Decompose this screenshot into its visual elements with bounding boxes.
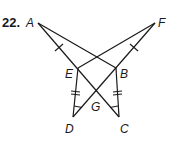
segment-ED: [73, 68, 78, 117]
segment-FE: [78, 23, 155, 68]
label-G: G: [91, 100, 100, 114]
geometry-figure: 22. A F E B G D C: [0, 0, 171, 151]
segment-FD: [73, 23, 155, 117]
segment-AC: [38, 23, 119, 117]
label-B: B: [120, 67, 128, 81]
problem-number: 22.: [2, 15, 20, 30]
tick-ED-2: [71, 94, 80, 95]
label-E: E: [65, 67, 74, 81]
label-D: D: [65, 122, 74, 136]
label-F: F: [158, 16, 166, 30]
segment-BC: [116, 68, 119, 117]
tick-BC-1: [113, 91, 122, 92]
label-C: C: [120, 122, 129, 136]
tick-BC-2: [113, 94, 122, 95]
segment-AB: [38, 23, 116, 68]
tick-ED-1: [71, 91, 80, 92]
label-A: A: [25, 16, 34, 30]
angle-mark-D: [74, 106, 82, 108]
angle-mark-C: [110, 106, 118, 108]
